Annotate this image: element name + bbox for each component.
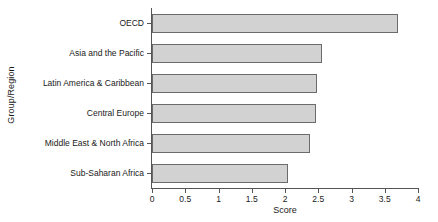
x-axis-tick-mark	[352, 189, 353, 193]
y-axis-tick-label: Sub-Saharan Africa	[22, 168, 144, 178]
bar	[152, 104, 316, 123]
y-axis-tick-label: OECD	[22, 18, 144, 28]
bar	[152, 164, 288, 183]
x-axis-tick-mark	[152, 189, 153, 193]
y-axis-tick-mark	[147, 143, 151, 144]
x-axis-tick-label: 1	[216, 194, 221, 204]
x-axis-tick-mark	[385, 189, 386, 193]
y-axis-tick-label: Middle East & North Africa	[22, 138, 144, 148]
y-axis-tick-mark	[147, 173, 151, 174]
y-axis-tick-mark	[147, 113, 151, 114]
bar	[152, 74, 317, 93]
x-axis-tick-mark	[185, 189, 186, 193]
x-axis-tick-label: 0.5	[179, 194, 191, 204]
y-axis-title-label: Group/Region	[6, 66, 16, 123]
y-axis-line	[151, 8, 152, 188]
x-axis-tick-label: 4	[416, 194, 421, 204]
x-axis-tick-label: 3	[349, 194, 354, 204]
plot-area	[152, 8, 418, 188]
x-axis-tick-mark	[219, 189, 220, 193]
x-axis-title: Score	[152, 205, 418, 215]
x-axis-tick-label: 2	[283, 194, 288, 204]
x-axis-tick-mark	[252, 189, 253, 193]
x-axis-tick-mark	[285, 189, 286, 193]
y-axis-title: Group/Region	[0, 0, 22, 190]
y-axis-tick-label: Latin America & Caribbean	[22, 78, 144, 88]
y-axis-tick-mark	[147, 83, 151, 84]
bar-chart-figure: Group/Region OECDAsia and the PacificLat…	[0, 0, 438, 222]
y-axis-tick-mark	[147, 23, 151, 24]
x-axis-tick-label: 0	[150, 194, 155, 204]
y-axis-tick-label: Asia and the Pacific	[22, 48, 144, 58]
bar	[152, 14, 398, 33]
y-axis-tick-mark	[147, 53, 151, 54]
x-axis-tick-mark	[418, 189, 419, 193]
bar	[152, 134, 310, 153]
x-axis-tick-label: 1.5	[246, 194, 258, 204]
x-axis-tick-label: 3.5	[379, 194, 391, 204]
y-axis-tick-label: Central Europe	[22, 108, 144, 118]
y-axis-tick-labels: OECDAsia and the PacificLatin America & …	[22, 8, 148, 188]
x-axis-tick-mark	[318, 189, 319, 193]
bar	[152, 44, 322, 63]
x-axis-tick-label: 2.5	[312, 194, 324, 204]
